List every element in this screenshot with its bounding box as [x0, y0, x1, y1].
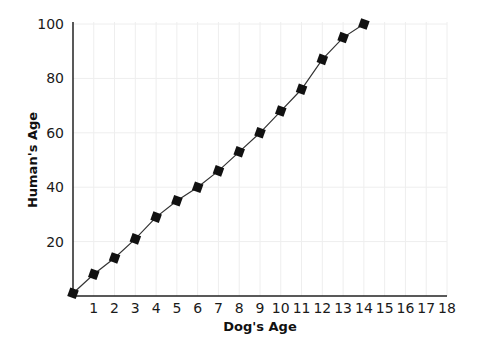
- x-tick-label: 8: [235, 300, 244, 316]
- x-tick-label: 7: [214, 300, 223, 316]
- x-tick-label: 6: [193, 300, 202, 316]
- x-tick-label: 16: [397, 300, 415, 316]
- x-tick-label: 5: [172, 300, 181, 316]
- y-tick-label: 20: [46, 234, 64, 250]
- x-tick-label: 14: [355, 300, 373, 316]
- x-tick-label: 2: [110, 300, 119, 316]
- y-tick-label: 100: [37, 16, 64, 32]
- data-point-marker: [358, 18, 370, 30]
- x-tick-label: 17: [417, 300, 435, 316]
- line-chart: 123456789101112131415161718 20406080100 …: [0, 0, 478, 354]
- gridlines: [73, 22, 447, 296]
- x-tick-label: 18: [438, 300, 456, 316]
- data-point-marker: [171, 195, 183, 207]
- x-tick-label: 10: [272, 300, 290, 316]
- x-tick-label: 3: [131, 300, 140, 316]
- y-tick-label: 60: [46, 125, 64, 141]
- x-axis-title: Dog's Age: [223, 319, 297, 334]
- x-tick-label: 1: [89, 300, 98, 316]
- y-axis-title: Human's Age: [25, 112, 40, 208]
- x-tick-label: 11: [293, 300, 311, 316]
- y-tick-label: 40: [46, 179, 64, 195]
- y-tick-label: 80: [46, 70, 64, 86]
- x-tick-label: 9: [256, 300, 265, 316]
- x-tick-label: 13: [334, 300, 352, 316]
- x-tick-labels: 123456789101112131415161718: [89, 300, 456, 316]
- x-tick-label: 12: [313, 300, 331, 316]
- x-tick-label: 4: [152, 300, 161, 316]
- data-point-marker: [192, 181, 204, 193]
- y-tick-labels: 20406080100: [37, 16, 64, 250]
- x-tick-label: 15: [376, 300, 394, 316]
